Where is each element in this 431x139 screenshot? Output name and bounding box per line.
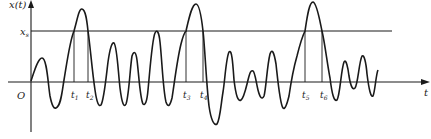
threshold-crossing-diagram: x(t) xs O t t1 t2 t3 t4 t5 t6 bbox=[0, 0, 431, 139]
signal-curve bbox=[31, 2, 378, 124]
crossing-label-t2: t2 bbox=[86, 90, 94, 101]
threshold-label: xs bbox=[20, 26, 29, 38]
y-axis-arrow-icon bbox=[28, 0, 34, 8]
axes bbox=[8, 3, 424, 132]
y-axis-label: x(t) bbox=[9, 0, 27, 10]
crossing-label-t1: t1 bbox=[71, 90, 78, 101]
crossing-lines bbox=[74, 31, 322, 82]
crossing-label-t4: t4 bbox=[200, 90, 208, 101]
crossing-label-t5: t5 bbox=[302, 90, 310, 101]
crossing-label-t3: t3 bbox=[183, 90, 191, 101]
t-axis-arrow-icon bbox=[421, 79, 430, 85]
origin-label: O bbox=[17, 90, 25, 101]
t-axis-label: t bbox=[424, 87, 429, 98]
crossing-label-t6: t6 bbox=[320, 90, 328, 101]
